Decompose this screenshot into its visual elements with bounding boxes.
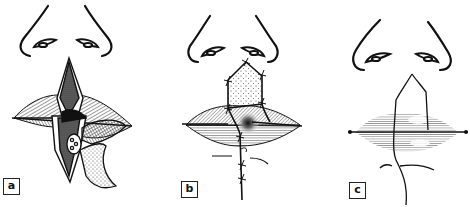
lips-healed <box>348 114 468 152</box>
nose-icon <box>353 20 451 70</box>
panel-label-c: c <box>349 182 366 199</box>
wedge-excision <box>52 58 86 182</box>
nose-icon <box>188 16 277 62</box>
panel-c-drawing <box>320 0 470 207</box>
panel-label-a: a <box>3 178 20 195</box>
panel-b-drawing <box>160 0 320 207</box>
panel-a-drawing <box>0 0 160 207</box>
panel-a: a <box>0 0 160 207</box>
panel-label-b: b <box>181 181 198 198</box>
panel-c: c <box>320 0 470 207</box>
nose-icon <box>21 6 112 56</box>
panel-b: b <box>160 0 320 207</box>
lips-sutured <box>182 106 302 146</box>
surgical-illustration-figure: a <box>0 0 470 207</box>
